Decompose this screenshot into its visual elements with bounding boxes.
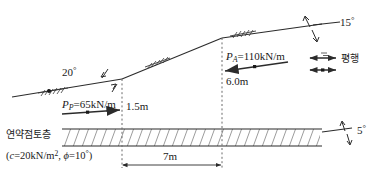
soil-parameters-label: (c=20kN/m2, ϕ=10°) [6, 150, 92, 162]
passive-force-label: PP=65kN/m [62, 99, 116, 112]
ground-surface-main-slope [122, 38, 222, 79]
angle-label-15deg: 15° [340, 16, 355, 28]
slope-node-marker [47, 89, 51, 93]
slope-stability-diagram: 20° 15° 5° PP=65kN/m 1.5m PA=110kN/m 6.0… [0, 0, 376, 174]
ground-surface-upper [222, 22, 340, 38]
surface-hatch-marks-mid [145, 57, 170, 69]
parallel-note-label: 평행 [341, 54, 359, 64]
parallel-arrow-lower [310, 68, 336, 71]
angle-label-20deg: 20° [62, 66, 77, 78]
active-force-label: PA=110kN/m [226, 51, 285, 64]
angle-label-5deg: 5° [357, 124, 366, 136]
soft-clay-layer [62, 129, 322, 146]
soil-layer-label: 연약점토층 [6, 130, 51, 140]
parallel-arrow-upper [310, 53, 336, 58]
diagram-canvas [0, 0, 376, 174]
dimension-label-6_0m: 6.0m [226, 76, 248, 87]
angle-tick-15deg [303, 16, 319, 42]
dimension-label-7m: 7m [163, 151, 177, 162]
angle-tick-5deg [322, 121, 352, 145]
dimension-label-1_5m: 1.5m [126, 101, 148, 112]
